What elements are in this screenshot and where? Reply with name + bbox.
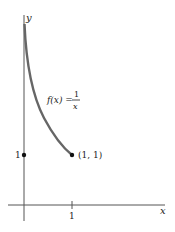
point-1-1 [70,153,74,157]
function-label-denominator: x [73,102,78,111]
function-label-numerator: 1 [74,90,79,99]
curve-f [25,24,73,155]
x-axis-label: x [160,205,166,216]
y-axis-label: y [25,12,32,23]
point-y1 [22,153,26,157]
graph: y x 1 1 (1, 1) f(x) = 1 x [0,0,175,232]
x-tick-label: 1 [69,211,75,221]
function-label-lhs: f(x) = [46,95,73,105]
y-tick-label: 1 [15,150,21,160]
point-label: (1, 1) [78,150,102,160]
